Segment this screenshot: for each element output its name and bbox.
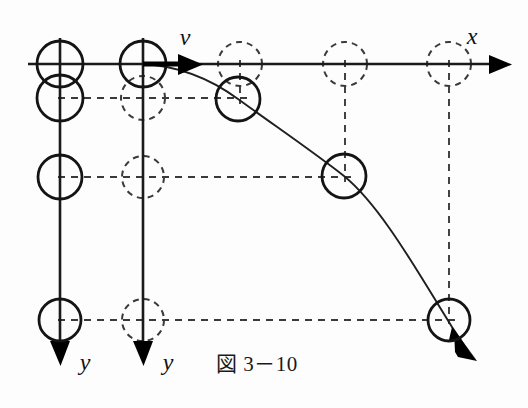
figure-caption: 図 3－10	[216, 347, 298, 377]
x-axis-label: x	[466, 23, 478, 49]
arrow-down-icon-y-axis-right	[133, 341, 153, 366]
figure-container: x v y y 図 3－10	[0, 0, 528, 408]
arrow-down-icon-y-axis-left	[50, 341, 70, 366]
axes-group	[28, 38, 512, 366]
parabolic-trajectory-path	[143, 64, 468, 351]
arrow-right-icon-velocity	[178, 54, 203, 75]
arrow-right-icon-x-axis	[489, 55, 512, 74]
velocity-vector-group	[143, 54, 203, 75]
y-axis-right-label: y	[161, 349, 174, 375]
dashed-circles-group	[121, 42, 471, 341]
solid-circles-group	[37, 41, 470, 341]
velocity-label: v	[180, 24, 191, 50]
y-axis-left-label: y	[78, 349, 91, 375]
